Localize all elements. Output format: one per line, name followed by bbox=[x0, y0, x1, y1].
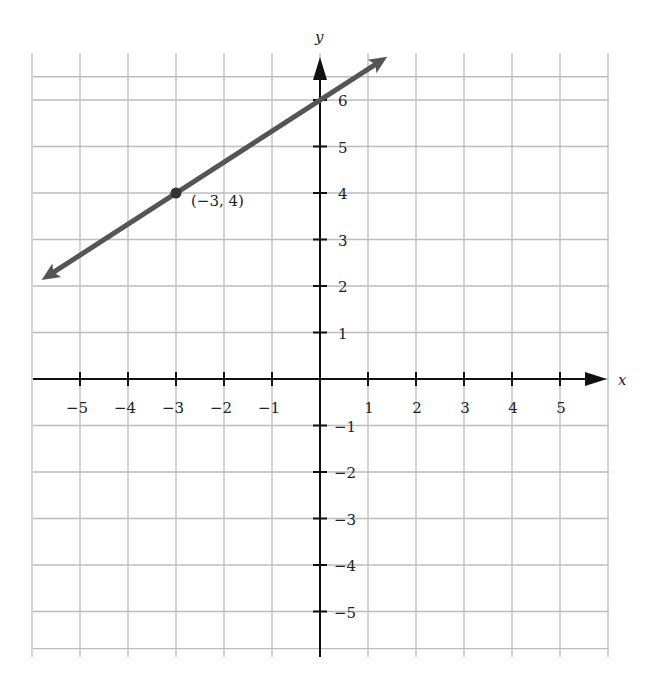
x-tick-label: 3 bbox=[460, 399, 470, 417]
y-tick-label: 6 bbox=[338, 92, 348, 110]
x-tick-label: −3 bbox=[162, 399, 184, 417]
point-marker bbox=[171, 188, 182, 199]
x-axis-label: x bbox=[618, 371, 627, 389]
y-axis-label: y bbox=[314, 28, 324, 46]
x-tick-label: −5 bbox=[66, 399, 88, 417]
y-tick-label: −3 bbox=[334, 511, 356, 529]
graph-line bbox=[42, 57, 388, 280]
x-tick-label: −4 bbox=[114, 399, 136, 417]
ticks: −5−4−3−2−112345654321−1−2−3−4−5 bbox=[66, 92, 566, 622]
y-axis-arrow-icon bbox=[313, 57, 327, 80]
point-label: (−3, 4) bbox=[191, 192, 244, 210]
y-tick-label: −2 bbox=[334, 464, 356, 482]
x-axis-arrow-icon bbox=[585, 372, 607, 386]
y-tick-label: −4 bbox=[334, 557, 356, 575]
x-tick-label: 4 bbox=[508, 399, 518, 417]
y-tick-label: 1 bbox=[338, 325, 348, 343]
y-tick-label: −1 bbox=[334, 418, 356, 436]
y-tick-label: 4 bbox=[338, 185, 348, 203]
y-tick-label: −5 bbox=[334, 604, 356, 622]
x-tick-label: 2 bbox=[412, 399, 422, 417]
coordinate-plane: −5−4−3−2−112345654321−1−2−3−4−5 x y (−3,… bbox=[0, 0, 659, 686]
x-tick-label: 5 bbox=[556, 399, 566, 417]
x-tick-label: −1 bbox=[258, 399, 280, 417]
y-tick-label: 2 bbox=[338, 278, 348, 296]
x-tick-label: 1 bbox=[364, 399, 374, 417]
line-segment bbox=[54, 65, 375, 273]
y-tick-label: 3 bbox=[338, 232, 348, 250]
x-tick-label: −2 bbox=[210, 399, 232, 417]
y-tick-label: 5 bbox=[338, 139, 348, 157]
